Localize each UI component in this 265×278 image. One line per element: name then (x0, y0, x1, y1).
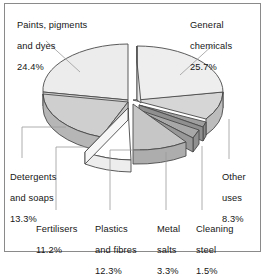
label-line2: and fibres (95, 245, 153, 256)
label-paints-pigments-and-dyes: Paints, pigments and dyes 24.4% (17, 9, 121, 83)
label-line2: and soaps (10, 193, 94, 204)
label-value: 1.5% (196, 266, 250, 277)
label-line2: uses (222, 193, 262, 204)
label-value: 3.3% (157, 266, 193, 277)
label-line1: General (190, 20, 260, 31)
label-line1: Paints, pigments (17, 20, 121, 31)
label-value: 24.4% (17, 62, 121, 73)
label-line2: chemicals (190, 41, 260, 52)
label-line1: Cleaning (196, 224, 250, 235)
label-value: 25.7% (190, 62, 260, 73)
label-line1: Fertilisers (36, 224, 92, 235)
label-general-chemicals: General chemicals 25.7% (190, 9, 260, 83)
label-metal-salts: Metal salts 3.3% (157, 213, 193, 278)
label-line1: Detergents (10, 172, 94, 183)
label-line1: Metal (157, 224, 193, 235)
label-plastics-and-fibres: Plastics and fibres 12.3% (95, 213, 153, 278)
label-cleaning-steel: Cleaning steel 1.5% (196, 213, 250, 278)
label-value: 11.2% (36, 245, 92, 256)
label-fertilisers: Fertilisers 11.2% (36, 213, 92, 266)
label-line1: Other (222, 172, 262, 183)
label-line1: Plastics (95, 224, 153, 235)
label-line2: and dyes (17, 41, 121, 52)
label-line2: steel (196, 245, 250, 256)
label-line2: salts (157, 245, 193, 256)
label-value: 12.3% (95, 266, 153, 277)
